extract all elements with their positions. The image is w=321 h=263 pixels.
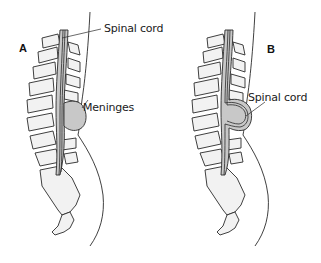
panel-b-illustration [192,12,268,246]
label-spinal-cord-a: Spinal cord [104,22,163,35]
label-spinal-cord-b: Spinal cord [248,91,307,104]
panel-label-b: B [267,43,275,55]
spine-illustration [0,0,321,263]
panel-label-a: A [19,42,27,54]
label-meninges: Meninges [83,101,134,114]
panel-a-illustration [27,12,103,246]
